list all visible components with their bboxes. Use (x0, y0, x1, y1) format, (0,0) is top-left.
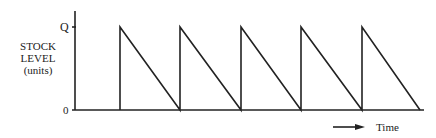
y-tick-zero: 0 (63, 104, 69, 116)
y-tick-q: Q (60, 21, 69, 33)
y-axis-label: STOCK LEVEL (units) (16, 40, 60, 76)
time-arrow-icon (355, 124, 365, 130)
x-axis-label: Time (376, 121, 399, 133)
y-label-line-2: LEVEL (16, 52, 60, 64)
stock-sawtooth-line (120, 27, 420, 110)
y-label-line-3: (units) (16, 64, 60, 76)
y-label-line-1: STOCK (16, 40, 60, 52)
